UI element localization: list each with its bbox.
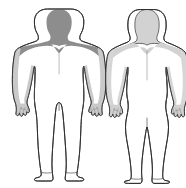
body-figures-svg (0, 0, 186, 188)
male-figure (12, 9, 105, 181)
body-figures-panel: Human body figures (0, 0, 186, 188)
female-figure (106, 10, 186, 184)
